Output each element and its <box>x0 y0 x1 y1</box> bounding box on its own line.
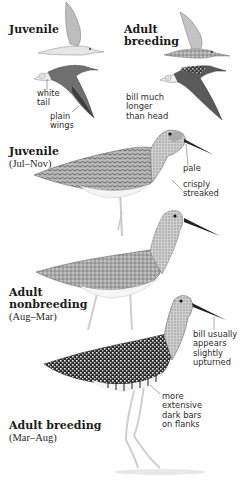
annotation-bill-longer: bill much longer than head <box>126 93 168 121</box>
field-guide-plate: Juvenile Adult breeding white tail plain… <box>0 0 242 483</box>
annotation-pale: pale <box>183 164 201 173</box>
bird-adult-breeding <box>44 295 226 475</box>
juvenile-season: (Jul–Nov) <box>9 158 52 170</box>
annotation-dark-bars: more extensive dark bars on flanks <box>162 392 202 429</box>
adult-breeding-season: (Mar–Aug) <box>9 432 57 444</box>
adult-nonbreeding-season: (Aug–Mar) <box>9 311 57 323</box>
bird-adult-nonbreeding <box>36 210 220 330</box>
annotation-crisply-streaked: crisply streaked <box>183 180 219 199</box>
flight-adult-label-line2: breeding <box>124 36 179 48</box>
annotation-bill-upturned: bill usually appears slightly upturned <box>193 330 237 367</box>
annotation-plain-wings: plain wings <box>50 112 74 131</box>
adult-nonbreeding-label-line2: nonbreeding <box>9 299 87 311</box>
flight-juvenile-label: Juvenile <box>9 24 59 36</box>
adult-breeding-label: Adult breeding <box>9 420 101 432</box>
annotation-white-tail: white tail <box>37 89 60 108</box>
bird-illustrations <box>0 0 242 483</box>
flight-adult-upperside <box>160 66 226 120</box>
juvenile-label: Juvenile <box>9 146 59 158</box>
